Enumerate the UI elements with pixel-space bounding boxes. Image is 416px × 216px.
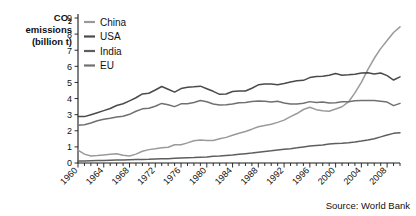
y-tick-label: 4 [67, 94, 72, 104]
y-axis-title-line3: (billion t) [32, 36, 72, 47]
legend-label-usa: USA [100, 31, 121, 42]
legend-label-eu: EU [100, 60, 114, 71]
y-tick-label: 7 [67, 46, 72, 56]
co2-emissions-line-chart: CO2 emissions (billion t) 0123456789 196… [0, 0, 416, 216]
y-axis-title-line2: emissions [26, 24, 72, 35]
legend-label-india: India [100, 46, 122, 57]
y-axis-title-line1: CO [54, 12, 68, 23]
source-label: Source: World Bank [326, 200, 411, 211]
y-tick-label: 5 [67, 78, 72, 88]
y-tick-label: 6 [67, 62, 72, 72]
y-tick-label: 2 [67, 126, 72, 136]
y-tick-label: 3 [67, 110, 72, 120]
y-tick-label: 1 [67, 142, 72, 152]
y-tick-label: 9 [67, 13, 72, 23]
legend-label-china: China [100, 17, 127, 28]
y-tick-label: 8 [67, 30, 72, 40]
